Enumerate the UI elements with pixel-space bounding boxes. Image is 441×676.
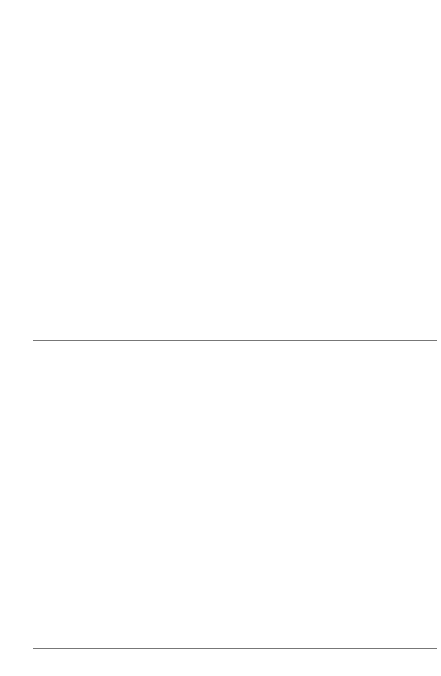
figure-root [0,0,441,676]
counts-x-axis-line [33,340,437,341]
shares-chart [0,432,441,676]
shares-plot-area [33,440,437,648]
counts-plot-area [33,48,437,340]
shares-x-axis-line [33,648,437,649]
counts-chart [0,0,441,430]
